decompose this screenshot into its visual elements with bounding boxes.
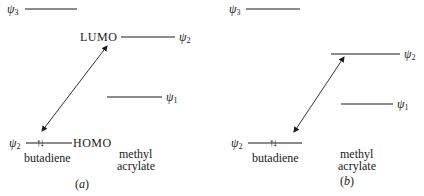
electron-pair-icon-b: ↑↓ <box>269 137 276 148</box>
label-homo: HOMO <box>73 137 112 149</box>
label-b-acrylate: acrylate <box>338 160 376 172</box>
interaction-arrow-a <box>42 46 107 131</box>
label-a-homo-psi2: ψ2 <box>9 137 20 151</box>
caption-b: (b) <box>340 175 354 187</box>
label-b-butadiene: butadiene <box>252 152 299 164</box>
label-a-psi1: ψ1 <box>166 91 177 105</box>
label-b-psi1: ψ1 <box>397 98 408 112</box>
label-b-psi3: ψ3 <box>229 3 240 17</box>
caption-a: (a) <box>75 178 89 190</box>
label-a-lumo-psi2: ψ2 <box>179 31 190 45</box>
label-lumo: LUMO <box>80 31 117 43</box>
label-b-homo-psi2: ψ2 <box>231 137 242 151</box>
label-b-psi2: ψ2 <box>404 48 415 62</box>
interaction-arrow-b <box>294 57 344 132</box>
label-a-acrylate: acrylate <box>117 160 155 172</box>
electron-pair-icon-a: ↑↓ <box>36 137 43 148</box>
label-a-psi3: ψ3 <box>7 3 18 17</box>
label-a-butadiene: butadiene <box>24 152 71 164</box>
